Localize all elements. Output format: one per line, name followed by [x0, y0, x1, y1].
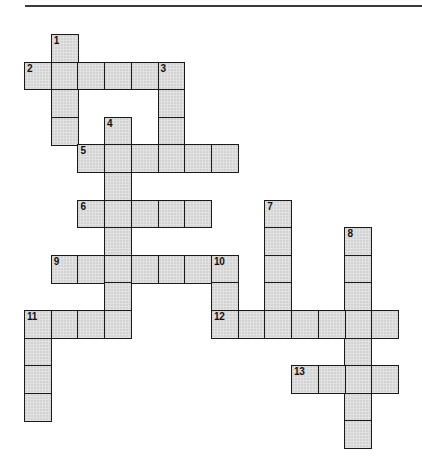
crossword-cell[interactable]	[104, 62, 132, 91]
crossword-cell[interactable]	[318, 310, 346, 339]
crossword-cell[interactable]	[104, 282, 132, 311]
crossword-cell[interactable]	[51, 62, 79, 91]
crossword-cell[interactable]: 13	[291, 365, 319, 394]
crossword-cell[interactable]: 9	[51, 255, 79, 284]
crossword-cell[interactable]: 8	[344, 227, 372, 256]
crossword-cell[interactable]	[344, 365, 372, 394]
crossword-cell[interactable]	[264, 227, 292, 256]
crossword-cell[interactable]	[77, 310, 105, 339]
crossword-cell[interactable]	[344, 338, 372, 367]
crossword-cell[interactable]: 12	[211, 310, 239, 339]
clue-number-label: 1	[54, 35, 59, 46]
clue-number-label: 11	[27, 311, 37, 322]
crossword-cell[interactable]	[291, 310, 319, 339]
crossword-cell[interactable]	[51, 117, 79, 146]
crossword-cell[interactable]	[77, 255, 105, 284]
crossword-cell[interactable]	[318, 365, 346, 394]
crossword-cell[interactable]	[104, 200, 132, 229]
crossword-cell[interactable]	[104, 310, 132, 339]
crossword-cell[interactable]	[344, 255, 372, 284]
crossword-cell[interactable]	[77, 62, 105, 91]
crossword-cell[interactable]	[238, 310, 266, 339]
crossword-cell[interactable]: 11	[24, 310, 52, 339]
crossword-cell[interactable]	[184, 200, 212, 229]
crossword-cell[interactable]	[51, 310, 79, 339]
crossword-cell[interactable]	[24, 365, 52, 394]
clue-number-label: 3	[161, 63, 166, 74]
crossword-cell[interactable]	[158, 89, 186, 118]
crossword-cell[interactable]	[158, 255, 186, 284]
crossword-cell[interactable]	[344, 310, 372, 339]
crossword-cell[interactable]	[344, 393, 372, 422]
clue-number-label: 2	[27, 63, 32, 74]
crossword-cell[interactable]: 7	[264, 200, 292, 229]
crossword-cell[interactable]	[104, 255, 132, 284]
crossword-cell[interactable]	[24, 393, 52, 422]
crossword-cell[interactable]	[264, 310, 292, 339]
crossword-cell[interactable]	[24, 338, 52, 367]
crossword-cell[interactable]: 10	[211, 255, 239, 284]
crossword-cell[interactable]: 3	[158, 62, 186, 91]
crossword-cell[interactable]	[158, 200, 186, 229]
clue-number-label: 9	[54, 256, 59, 267]
crossword-cell[interactable]	[371, 310, 399, 339]
crossword-cell[interactable]	[344, 282, 372, 311]
clue-number-label: 10	[214, 256, 225, 267]
crossword-cell[interactable]	[104, 227, 132, 256]
crossword-cell[interactable]	[131, 255, 159, 284]
crossword-cell[interactable]: 6	[77, 200, 105, 229]
clue-number-label: 13	[294, 366, 305, 377]
crossword-cell[interactable]	[131, 144, 159, 173]
clue-number-label: 7	[267, 201, 272, 212]
clue-number-label: 12	[214, 311, 225, 322]
clue-number-label: 4	[107, 118, 112, 129]
crossword-cell[interactable]: 1	[51, 34, 79, 63]
crossword-cell[interactable]	[51, 89, 79, 118]
crossword-cell[interactable]	[371, 365, 399, 394]
crossword-cell[interactable]	[131, 200, 159, 229]
crossword-cell[interactable]	[104, 144, 132, 173]
crossword-cell[interactable]	[184, 255, 212, 284]
crossword-cell[interactable]	[211, 144, 239, 173]
crossword-cell[interactable]	[264, 255, 292, 284]
crossword-cell[interactable]	[158, 117, 186, 146]
clue-number-label: 5	[80, 145, 85, 156]
crossword-cell[interactable]: 2	[24, 62, 52, 91]
clue-number-label: 8	[347, 228, 352, 239]
crossword-cell[interactable]	[211, 282, 239, 311]
crossword-grid: 12345678910121113	[0, 0, 422, 474]
crossword-cell[interactable]	[104, 172, 132, 201]
crossword-cell[interactable]	[184, 144, 212, 173]
clue-number-label: 6	[80, 201, 85, 212]
crossword-cell[interactable]	[264, 282, 292, 311]
crossword-cell[interactable]	[158, 144, 186, 173]
crossword-cell[interactable]: 5	[77, 144, 105, 173]
crossword-cell[interactable]: 4	[104, 117, 132, 146]
crossword-cell[interactable]	[344, 420, 372, 449]
crossword-cell[interactable]	[131, 62, 159, 91]
